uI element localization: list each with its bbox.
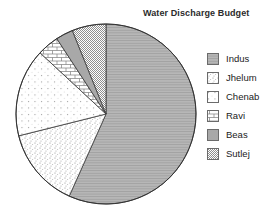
jhelum-swatch-icon: [207, 72, 219, 84]
pie-slices: [16, 24, 196, 204]
legend-item-beas: Beas: [207, 129, 259, 141]
legend-label: Indus: [226, 53, 249, 65]
legend-label: Chenab: [226, 91, 259, 103]
pie-chart-figure: Water Discharge Budget: [0, 0, 273, 211]
legend: Indus Jhelum Chenab Ravi Beas: [207, 53, 259, 167]
legend-label: Jhelum: [226, 72, 257, 84]
pie-chart: [14, 22, 198, 206]
indus-swatch-icon: [207, 53, 219, 65]
ravi-swatch-icon: [207, 110, 219, 122]
legend-label: Sutlej: [226, 148, 250, 160]
legend-label: Beas: [226, 129, 248, 141]
chenab-swatch-icon: [207, 91, 219, 103]
legend-item-sutlej: Sutlej: [207, 148, 259, 160]
beas-swatch-icon: [207, 129, 219, 141]
legend-item-jhelum: Jhelum: [207, 72, 259, 84]
sutlej-swatch-icon: [207, 148, 219, 160]
legend-label: Ravi: [226, 110, 245, 122]
chart-title: Water Discharge Budget: [143, 8, 249, 18]
legend-item-indus: Indus: [207, 53, 259, 65]
legend-item-chenab: Chenab: [207, 91, 259, 103]
legend-item-ravi: Ravi: [207, 110, 259, 122]
